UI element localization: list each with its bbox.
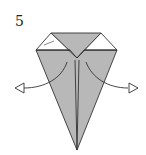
arrowhead-right-icon [129,83,138,93]
origami-step-diagram: 5 [0,0,146,155]
arrowhead-left-icon [15,83,24,93]
origami-figure [0,0,146,155]
